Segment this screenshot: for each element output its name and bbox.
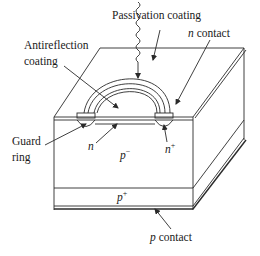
- label-p-contact-rest: contact: [156, 231, 193, 243]
- p-plus-side-boundary: [193, 120, 244, 188]
- label-p-minus-sup: −: [126, 147, 131, 156]
- side-contact-top: [193, 138, 244, 206]
- label-coating: coating: [24, 55, 58, 68]
- label-p-plus: p+: [116, 189, 128, 204]
- antireflection-arc-2: [97, 92, 157, 113]
- photodiode-diagram: Passivation coating Antireflection coati…: [0, 0, 260, 256]
- passivation-leader: [153, 30, 160, 60]
- guard-ring-leader: [45, 124, 86, 145]
- n-contact-leader: [176, 40, 210, 104]
- passivation-edge: [195, 50, 246, 118]
- label-n-plus-sup: +: [171, 141, 176, 150]
- n-plus-leader: [164, 125, 167, 142]
- side-contact-bottom: [193, 140, 246, 209]
- label-p-minus: p−: [119, 147, 131, 162]
- n-region-leader: [96, 124, 117, 143]
- antireflection-leader: [64, 66, 118, 108]
- label-n-contact: n contact: [188, 27, 231, 39]
- label-ring: ring: [12, 151, 31, 164]
- label-n-plus: n+: [165, 141, 176, 155]
- p-contact-leader: [155, 209, 171, 229]
- label-n-contact-rest: contact: [194, 27, 231, 39]
- label-guard: Guard: [12, 135, 41, 147]
- label-p-contact: p contact: [149, 231, 193, 244]
- label-passivation-coating: Passivation coating: [112, 9, 201, 22]
- guard-ring-junction: [77, 120, 95, 127]
- label-n-region: n: [88, 140, 94, 152]
- label-antireflection: Antireflection: [24, 39, 89, 51]
- label-p-plus-sup: +: [123, 189, 128, 198]
